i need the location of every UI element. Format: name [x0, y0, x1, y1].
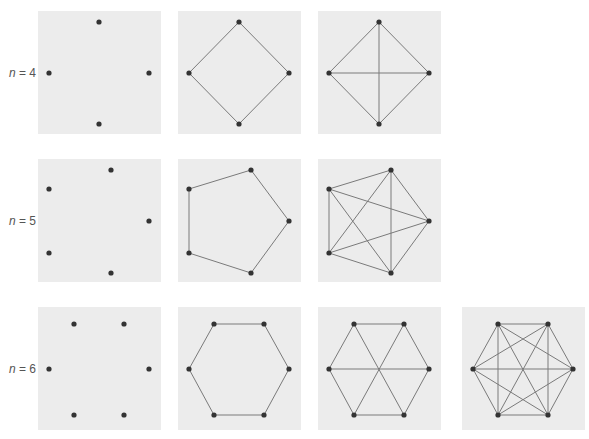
- graph-edge: [329, 170, 391, 253]
- graph-edge: [329, 324, 354, 369]
- graph-edge: [379, 73, 429, 124]
- graph-vertex: [121, 412, 126, 417]
- graph-panel-n4-vertices-only: [38, 11, 161, 134]
- graph-vertex: [96, 121, 101, 126]
- graph-vertex: [545, 412, 550, 417]
- graph-edge: [391, 221, 429, 273]
- graph-edge: [548, 324, 573, 369]
- graph-edge: [329, 189, 429, 221]
- graph-vertex: [570, 366, 575, 371]
- graph-vertex: [261, 412, 266, 417]
- graph-edge: [189, 170, 251, 189]
- graph-vertex: [388, 167, 393, 172]
- graph-edge: [329, 253, 391, 273]
- graph-edge: [329, 189, 391, 273]
- graph-vertex: [108, 167, 113, 172]
- graph-edge: [473, 369, 548, 415]
- graph-vertex: [388, 270, 393, 275]
- graph-vertex: [71, 412, 76, 417]
- graph-vertex: [326, 70, 331, 75]
- graph-vertex: [545, 321, 550, 326]
- graph-panel-n6-cycle-with-diagonals: [318, 307, 441, 430]
- graph-svg: [178, 159, 301, 282]
- graph-svg: [178, 11, 301, 134]
- graph-vertex: [71, 321, 76, 326]
- graph-vertex: [376, 19, 381, 24]
- graph-vertex: [248, 167, 253, 172]
- graph-vertex: [146, 366, 151, 371]
- graph-vertex: [326, 186, 331, 191]
- graph-edge: [251, 221, 289, 273]
- graph-vertex: [261, 321, 266, 326]
- graph-edge: [329, 73, 379, 124]
- graph-vertex: [236, 121, 241, 126]
- graph-edge: [473, 324, 498, 369]
- graph-vertex: [46, 70, 51, 75]
- graph-vertex: [351, 412, 356, 417]
- graph-vertex: [401, 321, 406, 326]
- graph-edge: [329, 170, 391, 189]
- graph-vertex: [248, 270, 253, 275]
- graph-svg: [38, 307, 161, 430]
- graph-edge: [329, 369, 354, 415]
- label-value: = 4: [16, 66, 36, 80]
- graph-panel-n5-cycle: [178, 159, 301, 282]
- graph-vertex: [186, 186, 191, 191]
- graph-vertex: [236, 19, 241, 24]
- graph-panel-n6-complete: [462, 307, 585, 430]
- graph-vertex: [96, 19, 101, 24]
- graph-vertex: [46, 186, 51, 191]
- graph-vertex: [186, 366, 191, 371]
- graph-vertex: [426, 218, 431, 223]
- graph-svg: [318, 11, 441, 134]
- graph-vertex: [286, 366, 291, 371]
- graph-panel-n6-vertices-only: [38, 307, 161, 430]
- graph-edge: [239, 73, 289, 124]
- graph-edge: [473, 324, 548, 369]
- graph-vertex: [426, 70, 431, 75]
- label-variable: n: [9, 362, 16, 376]
- label-value: = 6: [16, 362, 36, 376]
- graph-edge: [189, 253, 251, 273]
- graph-edge: [189, 324, 214, 369]
- label-variable: n: [9, 214, 16, 228]
- graph-vertex: [46, 366, 51, 371]
- row-label-n5: n = 5: [0, 214, 36, 228]
- graph-vertex: [426, 366, 431, 371]
- graph-edge: [404, 324, 429, 369]
- graph-vertex: [211, 321, 216, 326]
- graph-edge: [329, 22, 379, 73]
- graph-edge: [329, 221, 429, 253]
- graph-edge: [264, 369, 289, 415]
- graph-edge: [189, 22, 239, 73]
- graph-svg: [318, 307, 441, 430]
- graph-vertex: [470, 366, 475, 371]
- graph-vertex: [326, 250, 331, 255]
- graph-svg: [462, 307, 585, 430]
- graph-vertex: [121, 321, 126, 326]
- graph-vertex: [186, 250, 191, 255]
- graph-vertex: [211, 412, 216, 417]
- graph-panel-n4-complete: [318, 11, 441, 134]
- graph-vertex: [46, 250, 51, 255]
- graph-vertex: [286, 70, 291, 75]
- row-label-n6: n = 6: [0, 362, 36, 376]
- graph-edge: [548, 369, 573, 415]
- graph-edge: [404, 369, 429, 415]
- graph-edge: [498, 369, 573, 415]
- graph-panel-n6-cycle: [178, 307, 301, 430]
- graph-edge: [264, 324, 289, 369]
- graph-vertex: [401, 412, 406, 417]
- row-label-n4: n = 4: [0, 66, 36, 80]
- graph-vertex: [286, 218, 291, 223]
- graph-panel-n5-vertices-only: [38, 159, 161, 282]
- graph-edge: [379, 22, 429, 73]
- graph-panel-n5-complete: [318, 159, 441, 282]
- graph-vertex: [376, 121, 381, 126]
- graph-edge: [251, 170, 289, 221]
- graph-edge: [391, 170, 429, 221]
- graph-vertex: [186, 70, 191, 75]
- label-variable: n: [9, 66, 16, 80]
- graph-svg: [38, 11, 161, 134]
- graph-svg: [178, 307, 301, 430]
